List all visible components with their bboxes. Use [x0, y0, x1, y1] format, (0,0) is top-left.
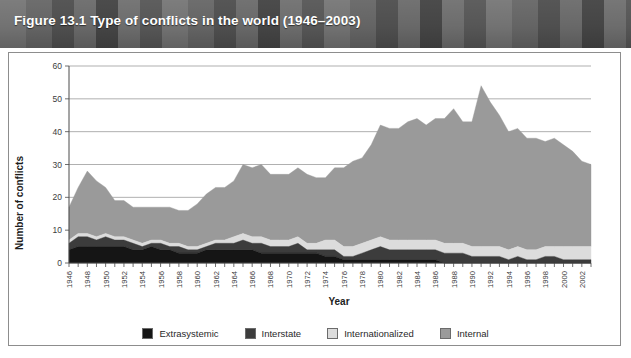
area-series-group [69, 86, 591, 263]
svg-text:1996: 1996 [523, 271, 532, 288]
legend-item[interactable]: Extrasystemic [142, 328, 218, 339]
svg-text:1972: 1972 [303, 271, 312, 288]
svg-text:1998: 1998 [541, 271, 550, 288]
legend-item[interactable]: Internal [440, 328, 489, 339]
svg-text:1962: 1962 [212, 271, 221, 288]
svg-text:1974: 1974 [321, 271, 330, 288]
svg-text:2000: 2000 [560, 271, 569, 288]
svg-text:1984: 1984 [413, 271, 422, 288]
svg-text:1986: 1986 [431, 271, 440, 288]
legend-label: Internationalized [344, 328, 414, 339]
svg-text:1978: 1978 [358, 271, 367, 288]
svg-text:1968: 1968 [266, 271, 275, 288]
svg-text:40: 40 [53, 127, 63, 137]
figure-container: Figure 13.1 Type of conflicts in the wor… [0, 0, 631, 358]
svg-text:1980: 1980 [376, 271, 385, 288]
legend-item[interactable]: Interstate [245, 328, 302, 339]
svg-text:1950: 1950 [102, 271, 111, 288]
svg-text:1948: 1948 [83, 271, 92, 288]
svg-text:50: 50 [53, 94, 63, 104]
svg-text:1964: 1964 [230, 271, 239, 288]
page-title: Figure 13.1 Type of conflicts in the wor… [14, 13, 361, 28]
svg-text:1992: 1992 [486, 271, 495, 288]
svg-text:1956: 1956 [157, 271, 166, 288]
svg-text:20: 20 [53, 192, 63, 202]
legend-item[interactable]: Internationalized [327, 328, 414, 339]
chart-legend: ExtrasystemicInterstateInternationalized… [9, 328, 622, 339]
svg-text:1958: 1958 [175, 271, 184, 288]
svg-text:2002: 2002 [578, 271, 587, 288]
svg-text:1994: 1994 [505, 271, 514, 288]
legend-swatch-interstate [245, 328, 256, 339]
svg-text:1952: 1952 [120, 271, 129, 288]
legend-label: Interstate [262, 328, 302, 339]
svg-text:1946: 1946 [65, 271, 74, 288]
svg-text:1966: 1966 [248, 271, 257, 288]
legend-label: Internal [457, 328, 489, 339]
legend-label: Extrasystemic [159, 328, 218, 339]
x-axis-ticks: 1946194819501952195419561958196019621964… [65, 263, 591, 288]
svg-text:60: 60 [53, 61, 63, 71]
svg-text:30: 30 [53, 160, 63, 170]
area-internal [69, 86, 591, 250]
svg-text:10: 10 [53, 225, 63, 235]
legend-swatch-extrasystemic [142, 328, 153, 339]
x-axis-title: Year [328, 296, 349, 307]
svg-text:1960: 1960 [193, 271, 202, 288]
svg-text:1954: 1954 [138, 271, 147, 288]
y-axis-ticks: 0102030405060 [53, 61, 69, 268]
chart-frame: 1946194819501952195419561958196019621964… [8, 52, 621, 346]
svg-text:0: 0 [57, 258, 62, 268]
legend-swatch-internal [440, 328, 451, 339]
legend-swatch-internationalized [327, 328, 338, 339]
svg-text:1982: 1982 [395, 271, 404, 288]
svg-text:1988: 1988 [450, 271, 459, 288]
stacked-area-chart: 1946194819501952195419561958196019621964… [9, 53, 620, 345]
svg-text:1990: 1990 [468, 271, 477, 288]
svg-text:1976: 1976 [340, 271, 349, 288]
svg-text:1970: 1970 [285, 271, 294, 288]
figure-title-banner: Figure 13.1 Type of conflicts in the wor… [0, 0, 631, 48]
y-axis-title: Number of conflicts [14, 156, 25, 250]
